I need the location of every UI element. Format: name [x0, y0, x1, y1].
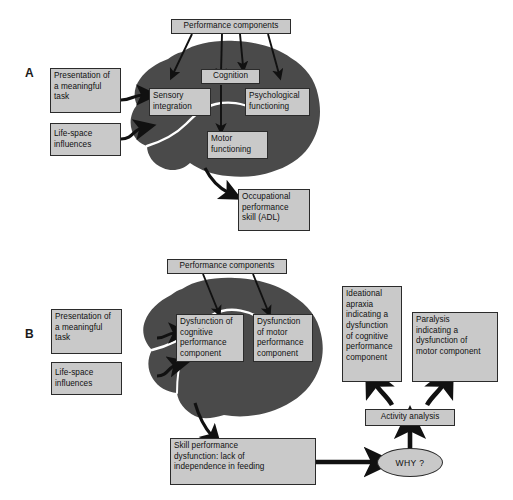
box-life-space-a: Life-space influences	[50, 123, 121, 156]
box-performance-components-a: Performance components	[171, 19, 291, 34]
box-dysfunction-motor-b: Dysfunction of motor performance compone…	[253, 314, 313, 362]
box-paralysis-b: Paralysis indicating a dysfunction of mo…	[412, 312, 498, 382]
box-sensory-integration-a: Sensory integration	[149, 88, 211, 116]
panel-label-a: A	[25, 66, 34, 80]
figure-root: A Performance components Presentation of…	[0, 0, 513, 500]
box-dysfunction-cognitive-b: Dysfunction of cognitive performance com…	[176, 314, 244, 362]
box-psychological-functioning-a: Psychological functioning	[245, 88, 310, 116]
box-life-space-b: Life-space influences	[51, 362, 122, 395]
box-occupational-performance-a: Occupational performance skill (ADL)	[238, 189, 310, 231]
box-cognition-a: Cognition	[201, 69, 260, 84]
box-ideational-apraxia-b: Ideational apraxia indicating a dysfunct…	[342, 286, 402, 382]
ellipse-why-b: WHY ?	[377, 448, 443, 477]
box-presentation-a: Presentation of a meaningful task	[50, 68, 121, 113]
arrows-activity-to-outcomes-b	[375, 383, 444, 405]
box-performance-components-b: Performance components	[167, 259, 287, 274]
box-activity-analysis-b: Activity analysis	[365, 409, 455, 426]
panel-label-b: B	[25, 327, 34, 341]
box-motor-functioning-a: Motor functioning	[207, 131, 268, 159]
box-skill-performance-dysfunction-b: Skill performance dysfunction: lack of i…	[170, 438, 316, 485]
box-presentation-b: Presentation of a meaningful task	[51, 309, 122, 354]
